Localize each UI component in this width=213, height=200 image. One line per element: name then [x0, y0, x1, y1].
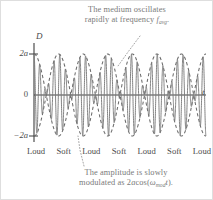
region-label-0: Loud: [27, 146, 45, 156]
region-label-2: Loud: [82, 146, 100, 156]
bottom-caption-line2: modulated as 2acos(ωmodt).: [79, 178, 173, 187]
region-label-5: Soft: [167, 146, 181, 156]
top-caption-line1: The medium oscillates: [88, 5, 166, 14]
y-tick-label-2a: 2a: [6, 48, 28, 58]
region-label-6: Loud: [193, 146, 211, 156]
top-caption-line2: rapidly at frequency favg.: [85, 15, 169, 24]
top-caption: The medium oscillates rapidly at frequen…: [52, 5, 202, 27]
loudness-label-row: LoudSoftLoudSoftLoudSoftLoud: [27, 146, 211, 160]
y-axis-label: D: [36, 31, 43, 41]
frequency-subscript: avg: [159, 19, 167, 25]
bottom-caption: The amplitude is slowly modulated as 2ac…: [40, 168, 212, 190]
y-tick-label-0: 0: [6, 89, 28, 99]
bottom-caption-line1: The amplitude is slowly: [84, 168, 167, 177]
x-axis-label: t: [202, 87, 205, 97]
y-tick-label-minus-2a: −2a: [2, 130, 28, 140]
omega-subscript: mod: [156, 182, 166, 188]
region-label-1: Soft: [57, 146, 71, 156]
region-label-4: Loud: [138, 146, 156, 156]
region-label-3: Soft: [112, 146, 126, 156]
